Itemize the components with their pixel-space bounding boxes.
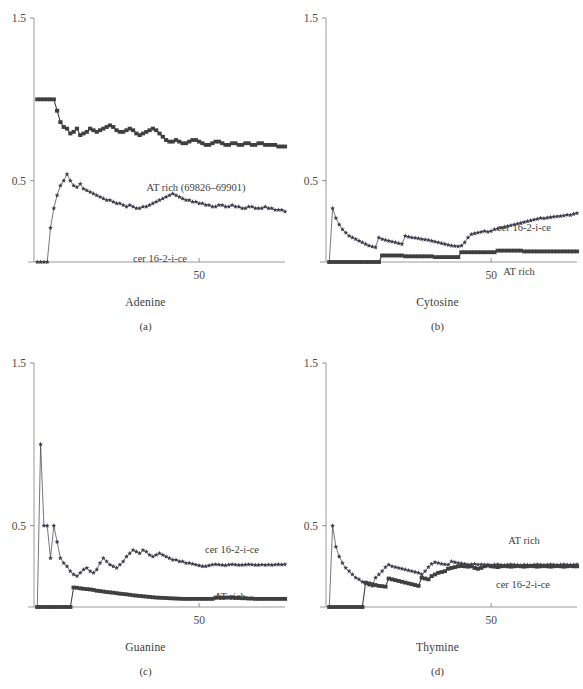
star-marker [386, 238, 391, 243]
star-marker [45, 260, 50, 265]
star-marker [256, 563, 261, 568]
star-marker [337, 222, 342, 227]
series-star [35, 442, 287, 609]
panel-b-caption: (b) [292, 320, 583, 332]
x-tick-label: 50 [485, 614, 497, 626]
square-marker [383, 585, 387, 589]
square-marker [68, 605, 72, 609]
star-marker [426, 238, 431, 243]
star-marker [190, 561, 195, 566]
star-marker [193, 562, 198, 567]
star-marker [210, 562, 215, 567]
square-marker [161, 135, 165, 139]
y-tick-label: 0.5 [12, 175, 27, 187]
series-annotation: cer 16-2-i-ce [133, 253, 187, 264]
square-marker [283, 597, 287, 601]
panel-b-xlabel: Cytosine [292, 296, 583, 308]
star-marker [456, 244, 461, 249]
series-annotation: cer 16-2-i-ce [496, 579, 550, 590]
square-marker [377, 260, 381, 264]
square-marker [111, 125, 115, 129]
panel-c-xlabel: Guanine [0, 641, 291, 653]
star-marker [383, 238, 388, 243]
y-tick-label: 0.5 [304, 175, 319, 187]
star-marker [337, 554, 342, 559]
x-tick-label: 50 [485, 269, 497, 281]
star-marker [403, 567, 408, 572]
square-marker [157, 132, 161, 136]
star-marker [472, 231, 477, 236]
y-tick-label: 1.5 [12, 357, 27, 369]
star-marker [555, 214, 560, 219]
plot-a: 0.51.550AT rich (69826–69901)cer 16-2-i-… [0, 0, 291, 300]
panel-d-caption: (d) [292, 665, 583, 677]
panel-c-guanine: 0.51.550cer 16-2-i-ceAT rich Guanine (c) [0, 345, 291, 689]
series-line [329, 208, 577, 262]
y-tick-label: 1.5 [12, 12, 27, 24]
star-marker [334, 544, 339, 549]
square-marker [72, 130, 76, 134]
star-marker [396, 241, 401, 246]
square-marker [154, 128, 158, 132]
square-marker [75, 127, 79, 131]
panel-a-xlabel: Adenine [0, 296, 291, 308]
star-marker [571, 212, 576, 217]
plot-b: 0.51.550cer 16-2-i-ceAT rich [292, 0, 583, 300]
star-marker [340, 561, 345, 566]
star-marker [433, 239, 438, 244]
star-marker [485, 229, 490, 234]
series-line [37, 99, 285, 146]
series-annotation: AT rich (69826–69901) [147, 182, 246, 194]
series-square [35, 97, 287, 148]
star-marker [68, 178, 73, 183]
series-annotation: AT rich [503, 266, 535, 277]
square-marker [575, 250, 579, 254]
star-marker [436, 240, 441, 245]
figure-nucleotide-frequency-panels: 0.51.550AT rich (69826–69901)cer 16-2-i-… [0, 0, 583, 689]
star-marker [446, 242, 451, 247]
star-marker [263, 563, 268, 568]
star-marker [558, 214, 563, 219]
star-marker [396, 565, 401, 570]
star-marker [269, 563, 274, 568]
x-tick-label: 50 [193, 269, 205, 281]
star-marker [476, 562, 481, 567]
star-marker [548, 215, 553, 220]
series-annotation: AT rich [508, 535, 540, 546]
y-tick-label: 0.5 [12, 520, 27, 532]
plot-c: 0.51.550cer 16-2-i-ceAT rich [0, 345, 291, 645]
star-marker [416, 236, 421, 241]
star-marker [370, 244, 375, 249]
square-marker [456, 255, 460, 259]
star-marker [476, 230, 481, 235]
series-annotation: cer 16-2-i-ce [497, 222, 551, 233]
series-line [37, 444, 285, 607]
panel-d-thymine: 0.51.550AT richcer 16-2-i-ce Thymine (d) [292, 345, 583, 689]
star-marker [436, 561, 441, 566]
star-marker [48, 556, 53, 561]
star-marker [535, 216, 540, 221]
series-annotation: AT rich [214, 591, 246, 602]
star-marker [400, 242, 405, 247]
star-marker [443, 242, 448, 247]
square-marker [360, 605, 364, 609]
star-marker [58, 183, 63, 188]
star-marker [542, 216, 547, 221]
star-marker [406, 568, 411, 573]
square-marker [283, 145, 287, 149]
star-marker [373, 245, 378, 250]
star-marker [479, 229, 484, 234]
square-marker [85, 130, 89, 134]
star-marker [223, 563, 228, 568]
star-marker [552, 214, 557, 219]
star-marker [409, 569, 414, 574]
star-marker [65, 172, 70, 177]
star-marker [482, 229, 487, 234]
series-annotation: cer 16-2-i-ce [205, 544, 259, 555]
square-marker [575, 564, 579, 568]
star-marker [207, 563, 212, 568]
y-tick-label: 1.5 [304, 12, 319, 24]
star-marker [406, 234, 411, 239]
square-marker [131, 128, 135, 132]
square-marker [416, 584, 420, 588]
